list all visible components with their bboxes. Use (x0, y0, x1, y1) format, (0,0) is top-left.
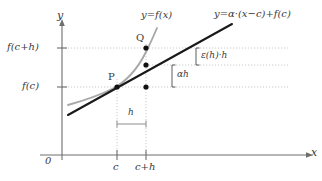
axes-group (40, 24, 308, 160)
y-tick-label-fc-plus-h: f(c+h) (7, 42, 39, 52)
x-tick-label-c: c (113, 162, 119, 172)
x-tick-label-c-plus-h: c+h (135, 162, 155, 172)
alpha-h-bracket-label: αh (177, 70, 189, 79)
dot-tangent-c-plus-h (143, 62, 148, 67)
point-label-P: P (108, 72, 115, 82)
dot-base-c-plus-h (143, 84, 148, 89)
y-tick-label-fc: f(c) (22, 81, 39, 91)
tangent-line-path (68, 24, 232, 115)
y-axis-label: y (57, 10, 63, 21)
x-axis-label: x (311, 147, 317, 158)
function-curve-label: y=f(x) (141, 10, 172, 20)
point-label-Q: Q (136, 33, 144, 43)
origin-label: 0 (45, 156, 51, 166)
marked-points (114, 45, 148, 89)
tangent-line-label: y=α·(x−c)+f(c) (214, 9, 291, 19)
epsilon-bracket (196, 48, 200, 65)
figure-canvas: y x 0 f(c+h) f(c) c c+h y=f(x) y=α·(x−c)… (0, 0, 322, 181)
h-bracket-label: h (128, 108, 134, 117)
dot-Q (143, 45, 148, 50)
diagram-svg (0, 0, 322, 181)
alpha-h-bracket (172, 65, 176, 87)
epsilon-bracket-label: ε(h)·h (201, 51, 227, 60)
dot-P (114, 84, 119, 89)
h-bracket (117, 121, 146, 128)
